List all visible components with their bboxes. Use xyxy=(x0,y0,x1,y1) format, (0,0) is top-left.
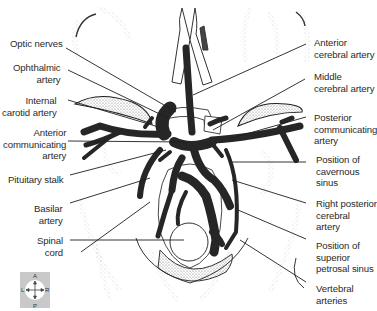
label-optic-nerves: Optic nerves xyxy=(10,38,63,50)
spinal-cord-section xyxy=(170,223,208,261)
label-anterior-cerebral-artery: Anterior cerebral artery xyxy=(314,37,374,60)
optic-nerves xyxy=(172,8,212,85)
orbital-roof-left xyxy=(76,14,96,37)
label-vertebral-arteries: Vertebral arteries xyxy=(316,283,354,306)
orientation-compass: A P L R xyxy=(20,272,50,308)
label-posterior-communicating-artery: Posterior communicating artery xyxy=(314,112,377,147)
label-ophthalmic-artery: Ophthalmic artery xyxy=(13,62,61,85)
temporal-lobe-left xyxy=(75,96,152,124)
label-anterior-communicating-artery: Anterior communicating artery xyxy=(3,127,66,162)
label-right-posterior-cerebral-artery: Right posterior cerebral artery xyxy=(316,198,377,233)
label-pituitary-stalk: Pituitary stalk xyxy=(8,174,64,186)
label-internal-carotid-artery: Internal carotid artery xyxy=(2,95,57,118)
label-basilar-artery: Basilar artery xyxy=(34,203,63,226)
compass-label-posterior: P xyxy=(33,303,37,309)
label-middle-cerebral-artery: Middle cerebral artery xyxy=(314,71,374,94)
label-position-of-superior-petrosal-sinus: Position of superior petrosal sinus xyxy=(316,240,374,275)
compass-label-anterior: A xyxy=(33,273,37,279)
temporal-lobe-right xyxy=(238,103,302,126)
compass-label-left: L xyxy=(21,287,24,293)
label-position-of-cavernous-sinus: Position of cavernous sinus xyxy=(316,154,360,189)
compass-label-right: R xyxy=(45,287,49,293)
label-spinal-cord: Spinal cord xyxy=(37,235,63,258)
